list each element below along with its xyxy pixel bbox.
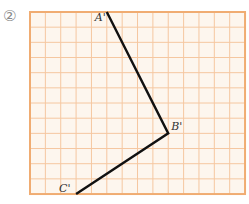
point-label-c-prime: C' — [59, 182, 70, 195]
grid-paper — [30, 12, 245, 194]
grid-figure: A'B'C' — [0, 0, 249, 204]
point-label-a-prime: A' — [94, 11, 106, 24]
point-label-b-prime: B' — [170, 120, 182, 133]
